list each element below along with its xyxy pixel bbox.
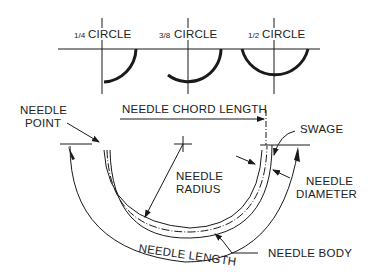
needle-body-label: NEEDLE BODY bbox=[268, 247, 352, 259]
radius-label-line1: NEEDLE bbox=[176, 170, 223, 182]
needle-anatomy: NEEDLE CHORD LENGTH NEEDLE POINT NEEDLE … bbox=[20, 103, 357, 268]
half-circle-label: CIRCLE bbox=[262, 28, 306, 40]
radius-label-line2: RADIUS bbox=[176, 183, 221, 195]
needle-body-arrow bbox=[215, 234, 222, 240]
suture-needle-anatomy-diagram: 1/4 CIRCLE 3/8 CIRCLE 1/2 CIRCLE NEEDLE … bbox=[0, 0, 372, 278]
swage-label: SWAGE bbox=[300, 123, 344, 135]
quarter-circle-label: CIRCLE bbox=[88, 28, 132, 40]
diameter-arrow-left bbox=[236, 156, 255, 164]
half-circle-needle-icon: 1/2 CIRCLE bbox=[242, 18, 308, 94]
three-eighths-circle-label: CIRCLE bbox=[174, 28, 218, 40]
needle-point-label-line2: POINT bbox=[25, 117, 61, 129]
chord-length-label: NEEDLE CHORD LENGTH bbox=[122, 103, 267, 115]
three-eighths-circle-needle-icon: 3/8 CIRCLE bbox=[159, 18, 221, 94]
diameter-arrow-right bbox=[273, 170, 290, 178]
quarter-fraction: 1/4 bbox=[74, 31, 86, 40]
diameter-label-line1: NEEDLE bbox=[306, 175, 353, 187]
half-fraction: 1/2 bbox=[248, 31, 260, 40]
diameter-label-line2: DIAMETER bbox=[296, 188, 357, 200]
needle-point-arrow bbox=[67, 123, 99, 142]
three-eighths-fraction: 3/8 bbox=[159, 31, 171, 40]
swage-arrow bbox=[274, 131, 295, 155]
needle-length-label: NEEDLE LENGTH bbox=[138, 242, 237, 268]
circle-types-row: 1/4 CIRCLE 3/8 CIRCLE 1/2 CIRCLE bbox=[58, 18, 320, 94]
needle-point-label-line1: NEEDLE bbox=[20, 104, 67, 116]
needle-length-arc bbox=[70, 146, 298, 262]
quarter-circle-needle-icon: 1/4 CIRCLE bbox=[74, 18, 136, 94]
